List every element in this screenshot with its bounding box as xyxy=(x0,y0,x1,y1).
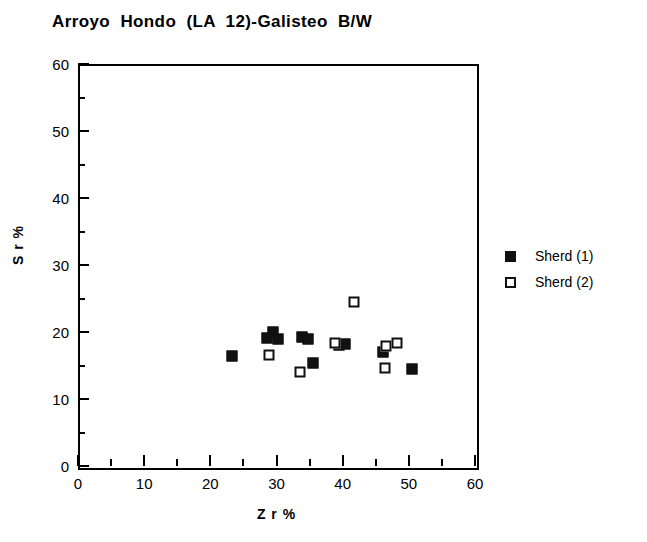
x-tick-label: 60 xyxy=(467,475,484,492)
chart-page: Arroyo Hondo (LA 12)-Galisteo B/W 010203… xyxy=(0,0,647,542)
y-tick-major: 30 xyxy=(78,264,89,266)
y-tick-major: 60 xyxy=(78,63,89,65)
data-point-series-2 xyxy=(329,338,340,349)
y-tick-label: 0 xyxy=(61,458,69,475)
data-point-series-2 xyxy=(294,367,305,378)
data-point-series-2 xyxy=(380,362,391,373)
x-tick-major: 0 xyxy=(77,455,79,466)
y-tick-minor xyxy=(78,231,85,233)
data-point-series-1 xyxy=(227,351,238,362)
plot-area: 0102030405060 0102030405060 xyxy=(78,64,475,466)
page-title: Arroyo Hondo (LA 12)-Galisteo B/W xyxy=(52,12,372,32)
x-tick-major: 50 xyxy=(408,455,410,466)
y-tick-minor xyxy=(78,298,85,300)
data-point-series-1 xyxy=(407,363,418,374)
y-tick-minor xyxy=(78,432,85,434)
x-axis-label: Z r % xyxy=(78,506,475,522)
data-point-series-1 xyxy=(307,357,318,368)
y-tick-label: 50 xyxy=(52,123,69,140)
x-tick-label: 40 xyxy=(334,475,351,492)
legend-item[interactable]: Sherd (2) xyxy=(505,269,635,295)
y-tick-major: 20 xyxy=(78,331,89,333)
x-tick-minor xyxy=(441,459,443,466)
open-square-icon xyxy=(505,277,516,288)
legend-item-label: Sherd (1) xyxy=(535,248,593,264)
x-tick-minor xyxy=(176,459,178,466)
data-point-series-1 xyxy=(303,333,314,344)
y-tick-label: 60 xyxy=(52,56,69,73)
x-tick-major: 40 xyxy=(342,455,344,466)
x-tick-major: 30 xyxy=(276,455,278,466)
x-tick-minor xyxy=(242,459,244,466)
x-tick-label: 20 xyxy=(202,475,219,492)
data-point-series-2 xyxy=(380,341,391,352)
x-tick-label: 10 xyxy=(136,475,153,492)
x-tick-major: 20 xyxy=(209,455,211,466)
x-tick-minor xyxy=(375,459,377,466)
data-point-series-1 xyxy=(339,339,350,350)
y-tick-major: 40 xyxy=(78,197,89,199)
filled-square-icon xyxy=(505,251,516,262)
chart-legend: Sherd (1)Sherd (2) xyxy=(505,243,635,295)
y-tick-minor xyxy=(78,97,85,99)
y-tick-major: 50 xyxy=(78,130,89,132)
y-tick-minor xyxy=(78,164,85,166)
y-tick-label: 40 xyxy=(52,190,69,207)
y-tick-minor xyxy=(78,365,85,367)
x-tick-label: 0 xyxy=(74,475,82,492)
y-tick-major: 10 xyxy=(78,398,89,400)
x-tick-minor xyxy=(309,459,311,466)
y-tick-label: 10 xyxy=(52,391,69,408)
legend-item[interactable]: Sherd (1) xyxy=(505,243,635,269)
data-point-series-2 xyxy=(264,349,275,360)
data-point-series-2 xyxy=(391,338,402,349)
y-tick-label: 20 xyxy=(52,324,69,341)
data-point-series-1 xyxy=(272,333,283,344)
x-tick-major: 60 xyxy=(474,455,476,466)
y-axis-label: S r % xyxy=(10,225,26,265)
x-tick-label: 30 xyxy=(268,475,285,492)
y-tick-label: 30 xyxy=(52,257,69,274)
x-tick-label: 50 xyxy=(400,475,417,492)
y-tick-major: 0 xyxy=(78,465,89,467)
data-point-series-2 xyxy=(348,296,359,307)
x-tick-major: 10 xyxy=(143,455,145,466)
legend-item-label: Sherd (2) xyxy=(535,274,593,290)
x-tick-minor xyxy=(110,459,112,466)
